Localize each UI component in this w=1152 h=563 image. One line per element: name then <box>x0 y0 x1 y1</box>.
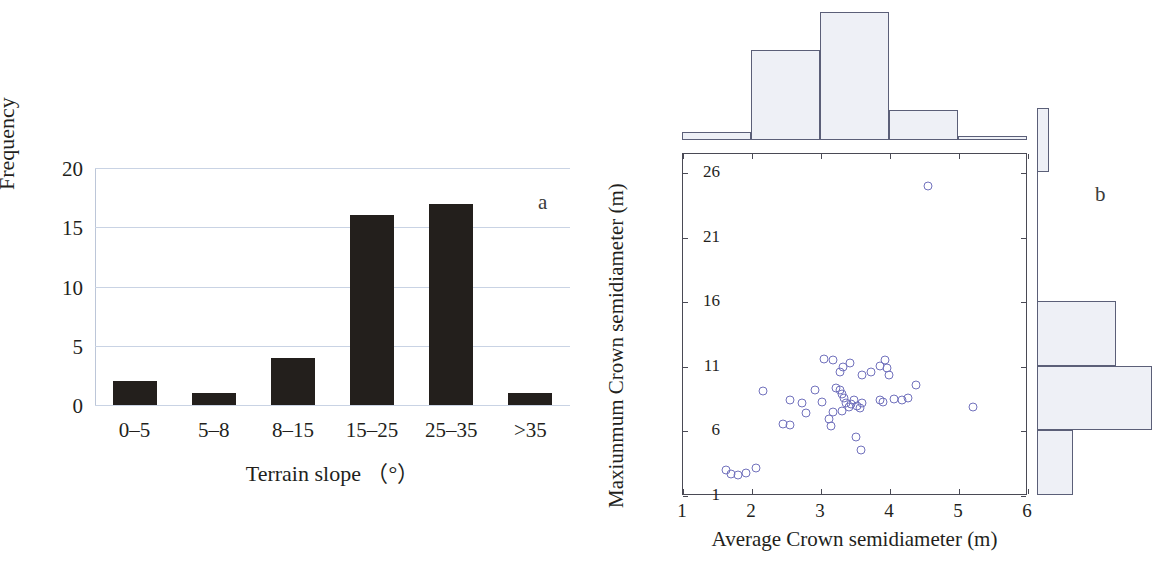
panel-b-y-tick-label: 26 <box>703 162 720 182</box>
panel-b-y-tick-label: 11 <box>704 356 720 376</box>
panel-b-top-marginal-histogram <box>682 6 1027 140</box>
scatter-point <box>884 370 893 379</box>
panel-b-y-tickmark <box>1021 496 1026 497</box>
panel-b-x-tickmark <box>752 489 753 494</box>
panel-a-bar-cell <box>333 168 412 405</box>
scatter-point <box>801 409 810 418</box>
scatter-point <box>818 397 827 406</box>
panel-a-x-tick-label: >35 <box>491 418 570 443</box>
panel-b-x-tickmark <box>1028 154 1029 159</box>
panel-b-y-tickmark <box>683 431 688 432</box>
panel-b-y-tick-label: 1 <box>712 485 721 505</box>
panel-a-x-tick-label: 5–8 <box>174 418 253 443</box>
panel-a-y-tick-label: 5 <box>53 335 83 360</box>
figure-container: Frequency 05101520 0–55–88–1515–2525–35>… <box>0 0 1152 563</box>
panel-b-x-tickmark <box>959 154 960 159</box>
top-histogram-bar <box>751 50 820 140</box>
panel-b-x-axis-title: Average Crown semidiameter (m) <box>682 527 1027 552</box>
bar <box>271 358 315 405</box>
scatter-point <box>968 402 977 411</box>
panel-b-x-tick-label: 5 <box>953 500 963 522</box>
panel-b-plot-area <box>682 153 1027 495</box>
panel-b-scatter-chart: Maxiunmum Crown semidiameter (m) Average… <box>600 0 1152 563</box>
panel-b-y-tickmark <box>1021 302 1026 303</box>
panel-b-y-tick-label: 21 <box>703 227 720 247</box>
panel-a-bar-cell <box>174 168 253 405</box>
scatter-point <box>785 421 794 430</box>
bar <box>192 393 236 405</box>
panel-a-bar-cell <box>412 168 491 405</box>
bar <box>429 204 473 405</box>
panel-b-x-tick-label: 6 <box>1022 500 1032 522</box>
panel-b-y-tickmark <box>1021 367 1026 368</box>
panel-b-x-tickmark <box>821 154 822 159</box>
scatter-point <box>879 397 888 406</box>
scatter-point <box>826 422 835 431</box>
scatter-point <box>866 368 875 377</box>
scatter-point <box>845 359 854 368</box>
scatter-point <box>923 182 932 191</box>
panel-a-bar-cell <box>95 168 174 405</box>
panel-b-y-tick-label: 16 <box>703 291 720 311</box>
panel-b-y-tickmark <box>683 367 688 368</box>
panel-b-y-tickmark <box>683 302 688 303</box>
top-histogram-bar <box>958 136 1027 140</box>
scatter-point <box>857 445 866 454</box>
scatter-point <box>858 399 867 408</box>
panel-b-y-axis-title: Maxiunmum Crown semidiameter (m) <box>604 183 629 508</box>
scatter-point <box>742 468 751 477</box>
right-histogram-bar <box>1037 108 1049 173</box>
scatter-point <box>785 396 794 405</box>
panel-b-x-tickmark <box>890 489 891 494</box>
panel-a-x-tick-label: 25–35 <box>412 418 491 443</box>
panel-a-bar-chart: Frequency 05101520 0–55–88–1515–2525–35>… <box>0 0 600 563</box>
panel-a-y-tick-label: 10 <box>53 276 83 301</box>
panel-a-x-axis-ticks: 0–55–88–1515–2525–35>35 <box>95 418 570 443</box>
panel-b-x-tickmark <box>959 489 960 494</box>
panel-b-x-tick-label: 4 <box>884 500 894 522</box>
scatter-point <box>851 432 860 441</box>
panel-a-x-axis-title: Terrain slope （°） <box>95 455 570 487</box>
top-histogram-bar <box>820 12 889 140</box>
panel-b-x-tick-label: 1 <box>677 500 687 522</box>
bar <box>350 215 394 405</box>
scatter-point <box>858 370 867 379</box>
panel-a-y-axis-title: Frequency <box>0 97 20 190</box>
scatter-point <box>912 381 921 390</box>
bar <box>113 381 157 405</box>
panel-b-x-tickmark <box>683 489 684 494</box>
scatter-point <box>759 387 768 396</box>
panel-a-y-tick-label: 20 <box>53 157 83 182</box>
scatter-point <box>836 368 845 377</box>
scatter-point <box>797 399 806 408</box>
panel-b-x-tick-label: 3 <box>815 500 825 522</box>
panel-a-x-tick-label: 0–5 <box>95 418 174 443</box>
panel-a-plot-area <box>95 168 570 405</box>
scatter-point <box>811 386 820 395</box>
panel-b-y-tickmark <box>683 496 688 497</box>
scatter-point <box>903 393 912 402</box>
panel-b-x-tickmark <box>821 489 822 494</box>
panel-b-y-tickmark <box>683 238 688 239</box>
panel-b-x-tickmark <box>890 154 891 159</box>
panel-b-x-tick-label: 2 <box>746 500 756 522</box>
panel-b-label: b <box>1095 182 1106 207</box>
panel-b-y-tickmark <box>1021 238 1026 239</box>
top-histogram-bar <box>889 110 958 140</box>
panel-b-x-tickmark <box>1028 489 1029 494</box>
top-histogram-bar <box>682 132 751 140</box>
panel-b-x-tickmark <box>683 154 684 159</box>
panel-b-y-tickmark <box>1021 431 1026 432</box>
scatter-point <box>752 463 761 472</box>
panel-a-bar-cell <box>253 168 332 405</box>
panel-b-x-tickmark <box>752 154 753 159</box>
panel-a-y-tick-label: 0 <box>53 394 83 419</box>
panel-a-x-tick-label: 8–15 <box>253 418 332 443</box>
panel-a-y-tick-label: 15 <box>53 216 83 241</box>
panel-a-x-tick-label: 15–25 <box>333 418 412 443</box>
bar <box>508 393 552 405</box>
right-histogram-bar <box>1037 366 1152 431</box>
panel-b-y-tickmark <box>683 173 688 174</box>
panel-b-y-tick-label: 6 <box>712 420 721 440</box>
right-histogram-bar <box>1037 430 1073 495</box>
